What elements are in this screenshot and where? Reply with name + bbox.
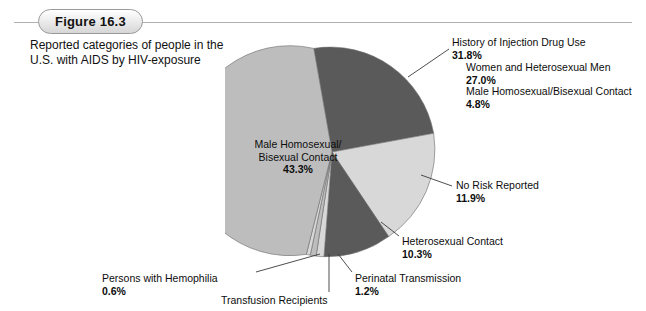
callout-male-homosexual-bisexual-contact-small-percent: 4.8% (466, 98, 632, 111)
pie-slice-label-male-homosexual: Male Homosexual/ Bisexual Contact 43.3% (236, 138, 360, 176)
pie-slice-label-percent: 43.3% (236, 163, 360, 176)
callout-persons-with-hemophilia: Persons with Hemophilia 0.6% (102, 272, 218, 297)
figure-number-pill: Figure 16.3 (38, 9, 143, 34)
callout-persons-with-hemophilia-percent: 0.6% (102, 285, 218, 298)
callout-no-risk-reported-name: No Risk Reported (456, 179, 539, 192)
callout-transfusion-recipients-name: Transfusion Recipients (221, 294, 327, 307)
callout-no-risk-reported-percent: 11.9% (456, 192, 539, 205)
callout-heterosexual-contact: Heterosexual Contact 10.3% (402, 235, 503, 260)
callout-male-homosexual-bisexual-contact-small-name: Male Homosexual/Bisexual Contact (466, 85, 632, 98)
callout-injection-drug-use-percent: 31.8% (452, 49, 586, 62)
callout-perinatal-transmission-percent: 1.2% (355, 285, 461, 298)
callout-perinatal-transmission: Perinatal Transmission 1.2% (355, 272, 461, 297)
callout-perinatal-transmission-name: Perinatal Transmission (355, 272, 461, 285)
pie-slice-injection-drug-use (314, 47, 434, 152)
pie-slice-label-line2: Bisexual Contact (259, 151, 338, 163)
callout-injection-drug-use: History of Injection Drug Use 31.8% (452, 36, 586, 61)
callout-injection-drug-use-name: History of Injection Drug Use (452, 36, 586, 49)
callout-heterosexual-contact-name: Heterosexual Contact (402, 235, 503, 248)
callout-male-homosexual-bisexual-contact-small: Male Homosexual/Bisexual Contact 4.8% (466, 85, 632, 110)
callout-transfusion-recipients: Transfusion Recipients (221, 294, 327, 307)
callout-persons-with-hemophilia-name: Persons with Hemophilia (102, 272, 218, 285)
callout-heterosexual-contact-percent: 10.3% (402, 248, 503, 261)
pie-slice-label-line1: Male Homosexual/ (255, 138, 342, 150)
figure-caption: Reported categories of people in the U.S… (30, 38, 245, 68)
figure-number-label: Figure 16.3 (55, 14, 126, 29)
figure-container: Figure 16.3 Reported categories of peopl… (0, 0, 646, 311)
callout-no-risk-reported: No Risk Reported 11.9% (456, 179, 539, 204)
callout-women-heterosexual-men: Women and Heterosexual Men 27.0% (466, 61, 611, 86)
callout-women-heterosexual-men-name: Women and Heterosexual Men (466, 61, 611, 74)
